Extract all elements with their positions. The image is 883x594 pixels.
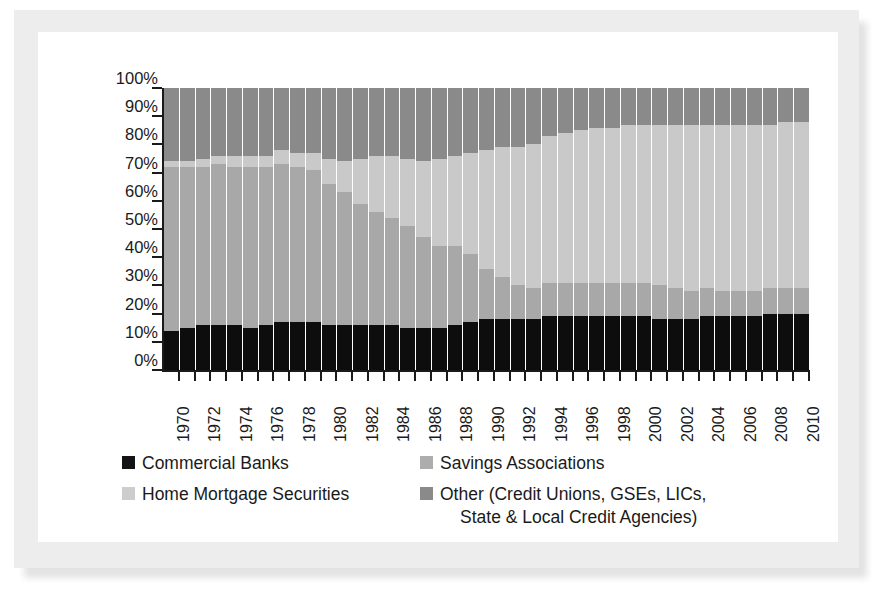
bar-1977	[274, 88, 290, 370]
bar-segment	[180, 328, 195, 370]
bar-segment	[322, 184, 337, 325]
bar-segment	[400, 328, 415, 370]
x-tick-mark	[367, 372, 369, 381]
bar-segment	[227, 88, 242, 156]
bar-1975	[243, 88, 259, 370]
bar-segment	[290, 88, 305, 153]
bar-segment	[763, 314, 778, 370]
legend-swatch-icon	[420, 456, 433, 469]
x-tick-mark	[320, 372, 322, 381]
bar-2005	[715, 88, 731, 370]
bar-segment	[479, 319, 494, 370]
legend-item-other: Other (Credit Unions, GSEs, LICs, State …	[420, 483, 706, 528]
bar-segment	[164, 331, 179, 370]
bar-segment	[605, 128, 620, 283]
x-tick-mark	[540, 372, 542, 381]
bar-segment	[432, 246, 447, 328]
legend-label-block: Other (Credit Unions, GSEs, LICs, State …	[440, 483, 706, 528]
bar-2007	[747, 88, 763, 370]
bar-2001	[652, 88, 668, 370]
bar-1997	[589, 88, 605, 370]
x-tick-mark	[572, 372, 574, 381]
bar-segment	[574, 88, 589, 130]
chart-page: Share of Existing Loans 0%10%20%30%40%50…	[0, 0, 883, 594]
bar-segment	[180, 167, 195, 328]
bar-1988	[448, 88, 464, 370]
bar-1971	[180, 88, 196, 370]
x-tick-mark	[713, 372, 715, 381]
bar-2010	[794, 88, 810, 370]
bar-1989	[463, 88, 479, 370]
bar-1990	[479, 88, 495, 370]
bars-container	[164, 88, 810, 370]
bar-1994	[542, 88, 558, 370]
bar-segment	[763, 88, 778, 125]
y-tick-mark	[152, 87, 162, 89]
bar-1995	[558, 88, 574, 370]
bar-segment	[715, 125, 730, 291]
x-tick-mark	[383, 372, 385, 381]
legend-swatch-icon	[420, 487, 433, 500]
x-tick-label: 2004	[711, 382, 727, 442]
bar-segment	[731, 316, 746, 370]
bar-segment	[558, 88, 573, 133]
x-tick-mark	[761, 372, 763, 381]
legend-swatch-icon	[122, 487, 135, 500]
bar-segment	[574, 316, 589, 370]
bar-segment	[274, 322, 289, 370]
bar-segment	[416, 328, 431, 370]
x-tick-label: 1994	[554, 382, 570, 442]
legend-label: Savings Associations	[440, 452, 604, 474]
bar-segment	[668, 125, 683, 289]
x-tick-label: 1982	[365, 382, 381, 442]
bar-1999	[621, 88, 637, 370]
y-tick-label: 70%	[78, 154, 158, 171]
bar-segment	[763, 288, 778, 313]
y-tick-label: 20%	[78, 295, 158, 312]
bar-segment	[448, 88, 463, 156]
bar-segment	[589, 316, 604, 370]
bar-segment	[432, 88, 447, 159]
bar-segment	[479, 269, 494, 320]
x-tick-mark	[288, 372, 290, 381]
x-tick-mark	[556, 372, 558, 381]
bar-segment	[337, 325, 352, 370]
bar-segment	[479, 150, 494, 268]
bar-2006	[731, 88, 747, 370]
bar-segment	[274, 88, 289, 150]
figure-card: Share of Existing Loans 0%10%20%30%40%50…	[38, 32, 838, 542]
bar-segment	[668, 88, 683, 125]
x-tick-mark	[461, 372, 463, 381]
bar-1980	[322, 88, 338, 370]
y-tick-mark	[152, 341, 162, 343]
x-tick-mark	[398, 372, 400, 381]
bar-segment	[637, 88, 652, 125]
y-tick-mark	[152, 228, 162, 230]
y-tick-mark	[152, 256, 162, 258]
x-tick-mark	[351, 372, 353, 381]
x-tick-label: 1986	[428, 382, 444, 442]
bar-segment	[400, 226, 415, 328]
bar-segment	[416, 161, 431, 237]
bar-segment	[637, 316, 652, 370]
x-tick-label: 1972	[207, 382, 223, 442]
bar-1993	[526, 88, 542, 370]
y-tick-mark	[152, 284, 162, 286]
bar-segment	[652, 319, 667, 370]
bar-1985	[400, 88, 416, 370]
bar-1976	[259, 88, 275, 370]
legend-row: Home Mortgage Securities Other (Credit U…	[122, 483, 822, 528]
x-tick-label: 1990	[491, 382, 507, 442]
x-tick-mark	[304, 372, 306, 381]
bar-segment	[164, 167, 179, 331]
stacked-bar-chart: Share of Existing Loans 0%10%20%30%40%50…	[38, 32, 838, 542]
bar-segment	[385, 218, 400, 325]
bar-segment	[684, 88, 699, 125]
bar-segment	[715, 316, 730, 370]
bar-segment	[526, 88, 541, 144]
bar-segment	[715, 88, 730, 125]
y-tick-mark	[152, 172, 162, 174]
bar-segment	[652, 88, 667, 125]
bar-segment	[495, 147, 510, 277]
x-tick-label: 1988	[459, 382, 475, 442]
